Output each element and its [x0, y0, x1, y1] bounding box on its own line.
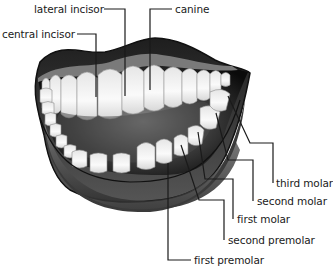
label-lateral-incisor: lateral incisor — [34, 3, 104, 15]
label-first-premolar: first premolar — [194, 254, 264, 266]
label-central-incisor: central incisor — [2, 28, 75, 40]
label-second-molar: second molar — [257, 195, 327, 207]
label-canine: canine — [175, 3, 209, 15]
label-third-molar: third molar — [276, 177, 333, 189]
label-second-premolar: second premolar — [228, 234, 315, 246]
label-first-molar: first molar — [237, 213, 290, 225]
